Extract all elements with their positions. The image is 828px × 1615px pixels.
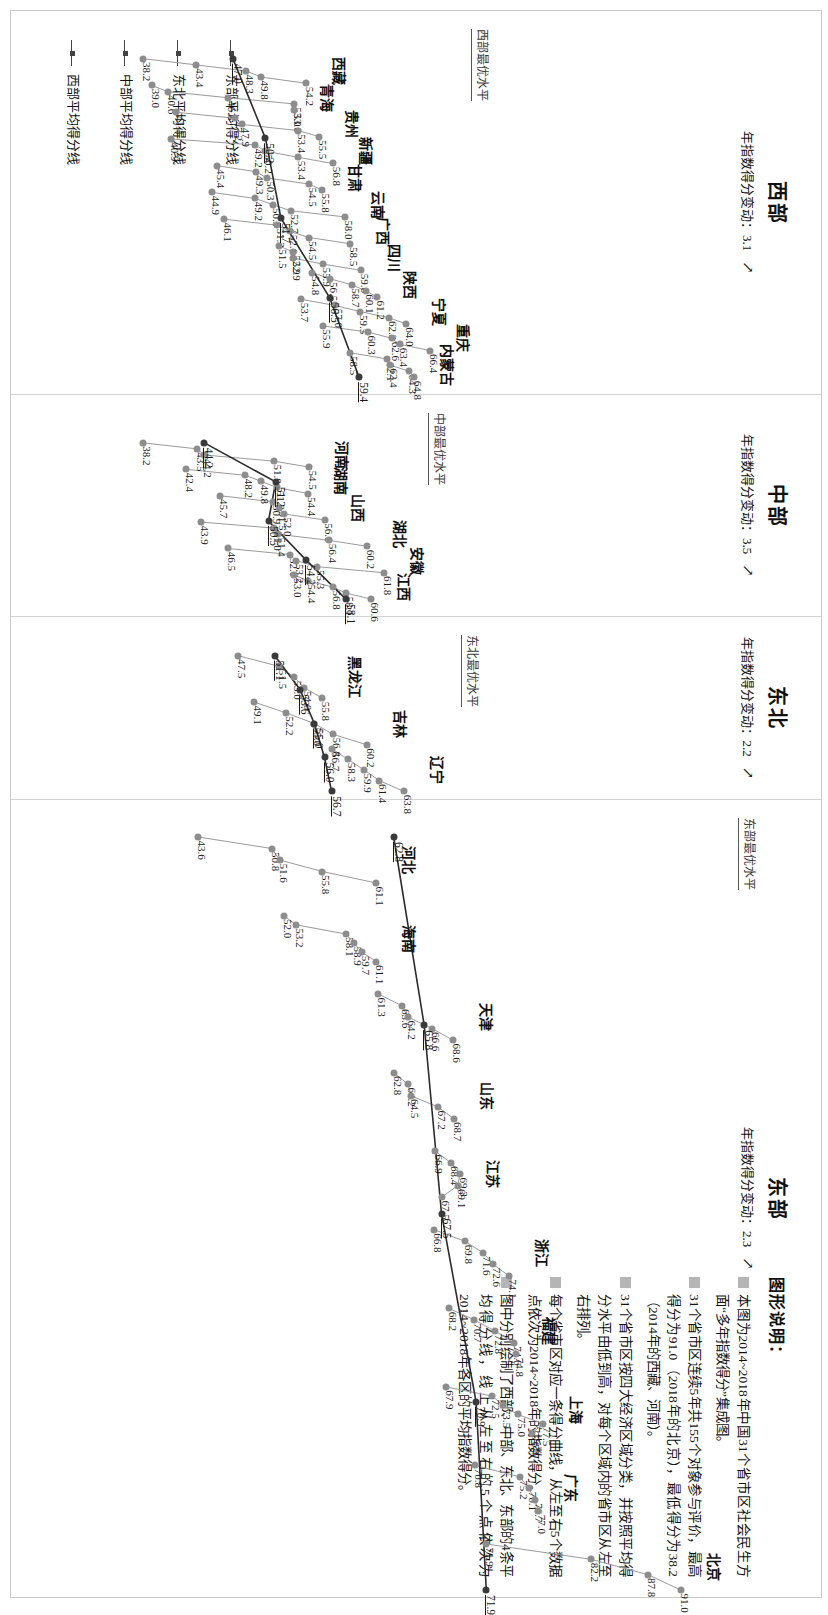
average-data-point [483,1587,490,1594]
average-data-point [438,1210,445,1217]
data-point-label: 47.9 [240,128,252,147]
data-point-label: 53.7 [299,303,311,322]
province-label: 福建 [540,1317,560,1345]
data-point-label: 53.4 [296,134,308,153]
data-point-label: 48.3 [244,74,256,93]
province-label: 河南 [333,441,353,469]
region-panel: 东部年指数得分变动：2.3↗东部最优水平河北43.650.851.655.861… [11,800,821,1597]
province-label: 宁夏 [430,298,450,326]
province-label: 广东 [562,1474,582,1502]
data-point-label: 66.9 [433,1155,445,1174]
data-point-label: 74.8 [514,1358,526,1377]
data-point-label: 60.2 [365,748,377,767]
data-point-label: 71.9 [484,1547,496,1566]
average-value-label: 51.2 [275,487,287,507]
data-point-label: 91.0 [679,1593,691,1612]
average-value-label: 55.0 [313,728,325,748]
province-label: 黑龙江 [346,656,366,698]
data-point-label: 54.4 [306,584,318,603]
data-point-label: 82.2 [589,1563,601,1582]
average-data-point [421,1022,428,1029]
data-point-label: 58.7 [350,288,362,307]
average-value-label: 65.8 [423,1030,435,1050]
province-label: 辽宁 [428,756,448,784]
data-point-label: 60.2 [365,550,377,569]
data-point-label: 54.5 [307,241,319,260]
data-point-label: 49.2 [253,202,265,221]
data-point-label: 52.2 [284,716,296,735]
average-value-label: 54.2 [305,565,317,585]
province-label: 上海 [567,1396,587,1424]
data-point-label: 64.2 [406,1020,418,1039]
data-point-label: 50.3 [265,181,277,200]
series-lines [11,395,821,617]
data-point-label: 53.2 [294,928,306,947]
data-point-label: 72.6 [491,1268,503,1287]
average-value-label: 67.5 [441,1218,453,1238]
average-data-point [297,686,304,693]
province-label: 江西 [395,573,415,601]
average-data-point [473,1398,480,1405]
data-point-label: 52.9 [291,261,303,280]
data-point-label: 49.8 [259,81,271,100]
data-point-label: 52.0 [282,919,294,938]
average-value-label: 62.8 [393,842,405,862]
province-label: 广西 [374,217,394,245]
data-point-label: 58.0 [343,220,355,239]
province-label: 浙江 [533,1239,553,1267]
average-data-point [326,294,333,301]
province-label: 安徽 [408,547,428,575]
data-point-label: 67.2 [436,1111,448,1130]
province-label: 江苏 [484,1160,504,1188]
data-point-label: 46.1 [222,222,234,241]
data-point-label: 39.0 [150,89,162,108]
average-data-point [390,834,397,841]
province-label: 北京 [705,1553,725,1581]
province-label: 海南 [400,925,420,953]
data-point-label: 53.0 [292,578,304,597]
data-point-label: 55.8 [320,702,332,721]
average-value-label: 50.5 [268,526,280,546]
data-point-label: 58.3 [346,763,358,782]
province-label: 四川 [385,244,405,272]
data-point-label: 63.4 [398,348,410,367]
data-point-label: 40.9 [169,142,181,161]
average-data-point [356,374,363,381]
data-point-label: 75.0 [516,1418,528,1437]
data-point-label: 56.8 [331,167,343,186]
data-point-label: 68.2 [447,1312,459,1331]
data-point-label: 44.9 [210,196,222,215]
average-data-point [303,557,310,564]
data-point-label: 67.9 [444,1390,456,1409]
average-value-label: 56.5 [329,303,341,323]
average-value-label: 50.2 [265,143,277,163]
province-label: 天津 [477,1003,497,1031]
data-point-label: 68.7 [452,1122,464,1141]
data-point-label: 64.0 [404,327,416,346]
data-point-label: 48.2 [243,479,255,498]
region-panel: 中部年指数得分变动：3.5↗中部最优水平河南38.243.544.251.054… [11,395,821,617]
province-label: 西藏 [330,57,350,85]
data-point-label: 53.4 [296,161,308,180]
data-point-label: 49.1 [252,705,264,724]
province-label: 陕西 [401,271,421,299]
data-point-label: 38.2 [141,62,153,81]
average-value-label: 71.9 [485,1595,497,1615]
data-point-label: 68.6 [451,1043,463,1062]
average-data-point [229,55,236,62]
data-point-label: 59.7 [360,956,372,975]
data-point-label: 72.8 [493,1335,505,1354]
data-point-label: 62.4 [388,368,400,387]
data-point-label: 77.0 [536,1515,548,1534]
province-label: 云南 [369,191,389,219]
data-point-label: 41.4 [174,116,186,135]
province-label: 吉林 [391,710,411,738]
data-point-label: 59.9 [362,773,374,792]
data-point-label: 56.4 [327,544,339,563]
province-label: 山东 [478,1082,498,1110]
data-point-label: 51.5 [277,249,289,268]
data-point-label: 55.9 [322,329,334,348]
data-point-label: 58.5 [348,247,360,266]
data-point-label: 45.7 [218,499,230,518]
